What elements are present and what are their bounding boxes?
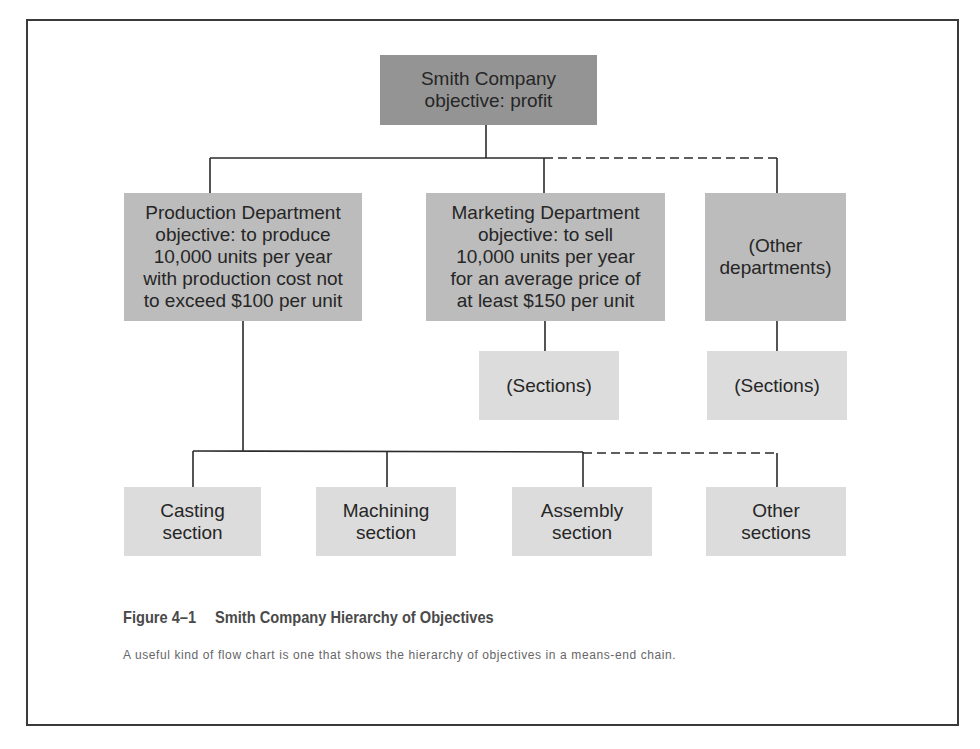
other-sections-label: Other sections — [741, 500, 811, 544]
figure-caption-title: Figure 4–1Smith Company Hierarchy of Obj… — [123, 608, 494, 628]
production-department-label: Production Department objective: to prod… — [143, 202, 343, 312]
other-department-sections-label: (Sections) — [734, 375, 820, 397]
production-department-box: Production Department objective: to prod… — [124, 193, 362, 321]
figure-number: Figure 4–1 — [123, 608, 196, 627]
marketing-sections-box: (Sections) — [479, 351, 619, 420]
root-objective-label: Smith Company objective: profit — [421, 68, 556, 112]
marketing-department-label: Marketing Department objective: to sell … — [450, 202, 640, 312]
other-sections-box: Other sections — [706, 487, 846, 556]
assembly-section-label: Assembly section — [541, 500, 623, 544]
marketing-department-box: Marketing Department objective: to sell … — [426, 193, 665, 321]
other-department-sections-box: (Sections) — [707, 351, 847, 420]
figure-title: Smith Company Hierarchy of Objectives — [215, 608, 494, 627]
figure-description: A useful kind of flow chart is one that … — [123, 648, 676, 662]
casting-section-box: Casting section — [124, 487, 261, 556]
machining-section-box: Machining section — [316, 487, 456, 556]
casting-section-label: Casting section — [160, 500, 224, 544]
other-departments-label: (Other departments) — [720, 235, 832, 279]
machining-section-label: Machining section — [343, 500, 430, 544]
root-objective-box: Smith Company objective: profit — [380, 55, 597, 125]
assembly-section-box: Assembly section — [512, 487, 652, 556]
marketing-sections-label: (Sections) — [506, 375, 592, 397]
other-departments-box: (Other departments) — [705, 193, 846, 321]
